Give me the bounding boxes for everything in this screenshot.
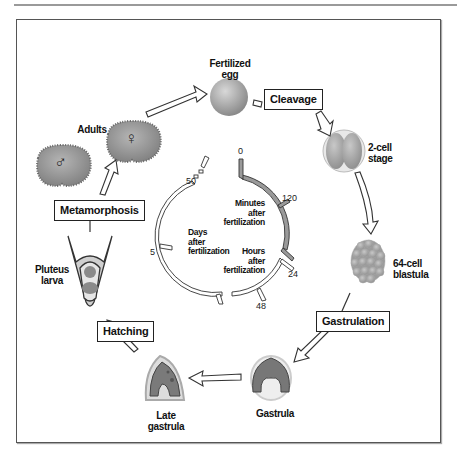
process-gastrulation: Gastrulation bbox=[316, 311, 390, 332]
label-pluteus-larva: Pluteus larva bbox=[34, 264, 70, 286]
tick-50: 50 bbox=[186, 176, 196, 186]
arrow-gastrula-to-late bbox=[189, 371, 241, 386]
process-hatching: Hatching bbox=[97, 321, 154, 342]
female-symbol-icon: ♀ bbox=[125, 129, 138, 149]
late-gastrula-icon bbox=[146, 356, 184, 400]
blastula-icon bbox=[351, 240, 385, 283]
tick-120: 120 bbox=[282, 193, 297, 203]
label-fertilized-egg: Fertilized egg bbox=[208, 58, 252, 80]
tick-24: 24 bbox=[288, 269, 298, 279]
tick-48: 48 bbox=[256, 301, 266, 311]
tick-5: 5 bbox=[150, 247, 155, 257]
arrow-adults-to-egg bbox=[146, 86, 207, 117]
two-cell-stage-icon bbox=[323, 130, 365, 172]
gastrula-icon bbox=[251, 356, 291, 400]
arrow-metamorphosis-to-adults bbox=[100, 160, 118, 195]
process-cleavage: Cleavage bbox=[264, 89, 323, 110]
timeline-minutes-label: Minutes after fertilization bbox=[213, 199, 265, 228]
arrow-cleavage-to-2cell bbox=[316, 111, 333, 136]
label-two-cell-stage: 2-cell stage bbox=[368, 142, 404, 164]
label-late-gastrula: Late gastrula bbox=[146, 410, 186, 432]
pluteus-larva-icon bbox=[68, 236, 112, 306]
fertilized-egg-icon bbox=[210, 78, 248, 116]
label-adults: Adults bbox=[74, 124, 110, 135]
arrow-gastrulation-to-gastrula bbox=[294, 327, 330, 362]
label-blastula: 64-cell blastula bbox=[393, 258, 437, 280]
process-metamorphosis: Metamorphosis bbox=[54, 200, 145, 221]
arrow-2cell-to-blastula bbox=[355, 172, 378, 234]
tick-0: 0 bbox=[238, 146, 243, 156]
male-symbol-icon: ♂ bbox=[54, 153, 67, 173]
arrow-egg-to-cleavage bbox=[253, 100, 262, 107]
label-gastrula: Gastrula bbox=[252, 408, 298, 419]
timeline-days-label: Days after fertilization bbox=[188, 228, 248, 257]
